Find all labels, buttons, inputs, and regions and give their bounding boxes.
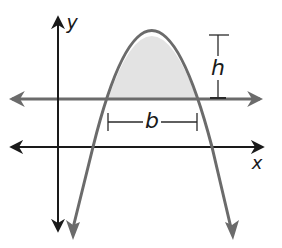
shaded-region [108,36,197,99]
diagram-canvas [0,0,282,248]
parabola-right-arrow-icon [225,220,239,240]
height-label: h [211,56,225,80]
parabola-diagram: y x b h [0,0,282,248]
y-axis-label: y [66,13,77,32]
base-label: b [143,110,161,132]
x-axis-label: x [252,154,263,172]
